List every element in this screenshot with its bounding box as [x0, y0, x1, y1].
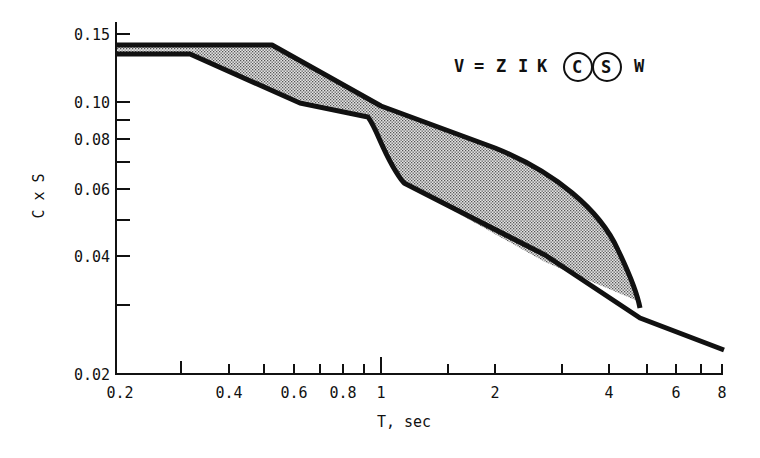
- chart: 0.15 0.10 0.08 0.06 0.04 0.02 0.2 0.4 0.…: [0, 0, 760, 458]
- formula-c: C: [572, 57, 582, 77]
- formula-equals: =: [474, 56, 484, 76]
- x-tick-label: 2: [490, 384, 499, 402]
- formula-v: V: [454, 56, 464, 76]
- x-tick-label: 0.2: [106, 384, 133, 402]
- formula-i: I: [518, 56, 528, 76]
- y-tick-label: 0.08: [74, 131, 110, 149]
- x-tick-label: 0.6: [280, 384, 307, 402]
- x-axis-title: T, sec: [377, 413, 431, 431]
- x-tick-label: 0.4: [215, 384, 242, 402]
- formula-s: S: [601, 57, 611, 77]
- y-ticks: [116, 34, 130, 305]
- y-tick-label: 0.06: [74, 181, 110, 199]
- formula-z: Z: [496, 56, 506, 76]
- lower-bound-curve: [116, 54, 724, 350]
- y-tick-label: 0.10: [74, 94, 110, 112]
- x-tick-label: 8: [717, 384, 726, 402]
- y-tick-label: 0.02: [74, 366, 110, 384]
- x-tick-label: 0.8: [329, 384, 356, 402]
- x-tick-label: 6: [671, 384, 680, 402]
- y-tick-label: 0.15: [74, 26, 110, 44]
- formula-annotation: V = Z I K C S W: [454, 53, 645, 81]
- formula-k: K: [537, 56, 548, 76]
- formula-w: W: [634, 56, 645, 76]
- x-tick-label: 1: [376, 384, 385, 402]
- x-tick-label: 4: [604, 384, 613, 402]
- y-axis-title: C x S: [30, 173, 48, 218]
- y-tick-label: 0.04: [74, 248, 110, 266]
- x-ticks: [181, 357, 722, 374]
- x-tick-labels: 0.2 0.4 0.6 0.8 1 2 4 6 8: [106, 384, 726, 402]
- y-tick-labels: 0.15 0.10 0.08 0.06 0.04 0.02: [74, 26, 110, 384]
